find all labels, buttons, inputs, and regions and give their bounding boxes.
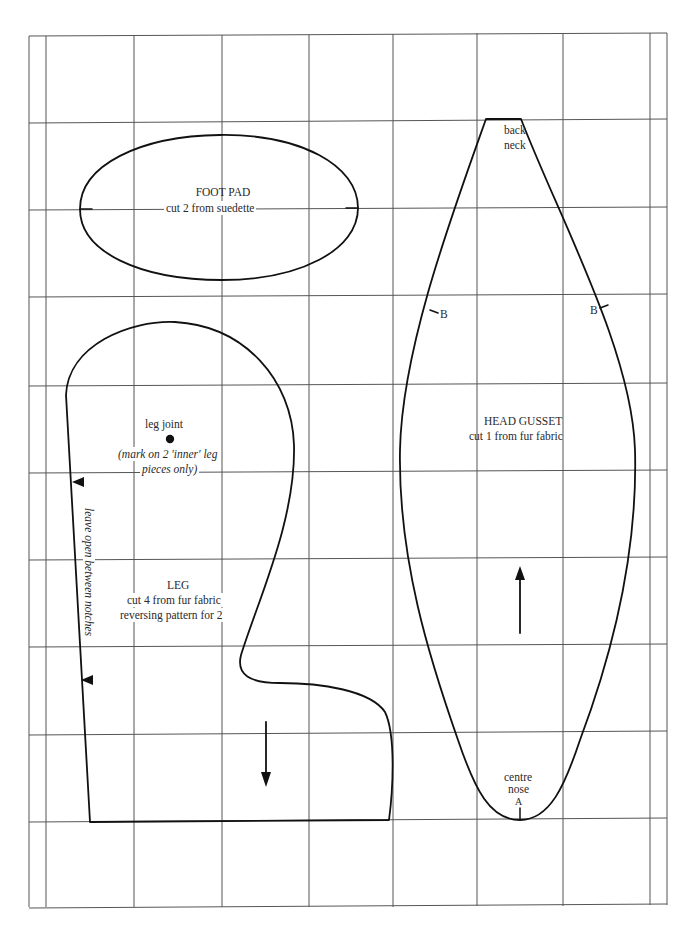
pattern-pieces (0, 0, 690, 935)
notch-b-left: B (438, 307, 450, 321)
back-neck-label-2: neck (502, 138, 528, 152)
leg-opening-note: leave open between notches (83, 508, 95, 636)
leg-instruction-1: cut 4 from fur fabric (125, 593, 223, 607)
leg-outline (66, 322, 393, 822)
leg-joint-label: leg joint (143, 417, 185, 431)
foot-pad-instruction: cut 2 from suedette (164, 201, 256, 215)
leg-joint-dot (166, 435, 174, 443)
back-neck-label-1: back (502, 123, 528, 137)
centre-nose-label-2: nose (506, 782, 531, 796)
head-gusset-outline (400, 119, 635, 820)
pattern-sheet: FOOT PAD cut 2 from suedette leg joint (… (0, 0, 690, 935)
arrow-down-icon (261, 772, 271, 787)
arrow-up-icon (515, 566, 525, 580)
leg-joint-note-2: pieces only) (140, 462, 199, 476)
leg-title: LEG (165, 578, 191, 592)
leg-instruction-2: reversing pattern for 2 (118, 608, 225, 622)
notch-a: A (513, 795, 524, 809)
head-gusset-title: HEAD GUSSET (482, 414, 564, 428)
leg-notch-upper (72, 477, 84, 487)
head-gusset-instruction: cut 1 from fur fabric (467, 429, 565, 443)
foot-pad-title: FOOT PAD (178, 185, 268, 199)
leg-joint-note-1: (mark on 2 'inner' leg (116, 447, 219, 461)
notch-b-right: B (588, 303, 600, 317)
